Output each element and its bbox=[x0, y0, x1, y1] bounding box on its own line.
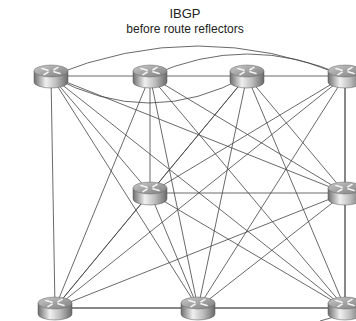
ibgp-link bbox=[198, 76, 247, 308]
ibgp-link bbox=[150, 76, 345, 308]
router-middle-right-icon bbox=[328, 182, 356, 205]
router-top-left-icon bbox=[34, 65, 68, 88]
router-bottom-right-icon bbox=[328, 297, 356, 320]
ibgp-link bbox=[247, 76, 345, 193]
ibgp-link bbox=[51, 76, 198, 308]
ibgp-link bbox=[51, 76, 150, 193]
router-bottom-center-icon bbox=[181, 297, 215, 320]
router-bottom-left-icon bbox=[38, 297, 72, 320]
ibgp-link bbox=[150, 193, 198, 308]
ibgp-session-links bbox=[51, 46, 356, 321]
ibgp-link bbox=[55, 193, 150, 308]
router-top-right-icon bbox=[328, 65, 356, 88]
ibgp-link bbox=[51, 76, 55, 308]
router-middle-center-icon bbox=[133, 182, 167, 205]
router-top-center-left-icon bbox=[133, 65, 167, 88]
ibgp-link bbox=[150, 193, 345, 308]
router-top-center-right-icon bbox=[230, 65, 264, 88]
ibgp-link bbox=[198, 76, 345, 308]
ibgp-full-mesh-diagram bbox=[0, 0, 356, 321]
ibgp-link bbox=[55, 193, 345, 308]
